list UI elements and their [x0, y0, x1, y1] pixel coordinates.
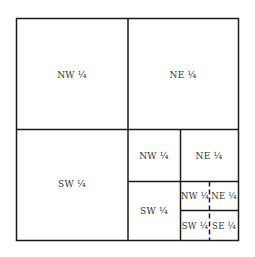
label-se-ne: NE ¼ [196, 151, 223, 161]
label-ne-quarter: NE ¼ [170, 70, 197, 80]
label-se-nw: NW ¼ [139, 151, 169, 161]
label-se-sw: SW ¼ [140, 206, 168, 216]
label-se-se-nw: NW ¼ [181, 191, 209, 201]
label-se-se-se: SE ¼ [212, 221, 236, 231]
label-se-se-sw: SW ¼ [182, 221, 208, 231]
label-sw-quarter: SW ¼ [58, 179, 86, 189]
section-subdivision-diagram: NW ¼ NE ¼ SW ¼ NW ¼ NE ¼ SW ¼ NW ¼ NE ¼ … [0, 0, 255, 257]
label-se-se-ne: NE ¼ [211, 191, 236, 201]
label-nw-quarter: NW ¼ [57, 70, 87, 80]
grid-lines [17, 19, 239, 241]
